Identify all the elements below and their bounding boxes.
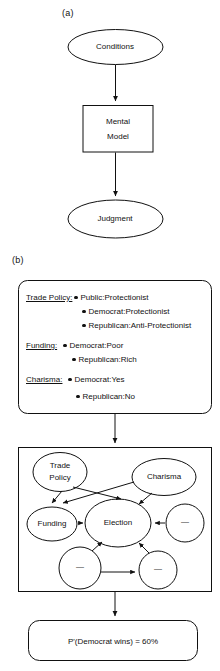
node-mental-model-label-line2: Model (107, 132, 129, 142)
evidence-item-funding-democrat: Democrat:Poor (63, 341, 123, 350)
bullet-dot-icon (82, 310, 86, 314)
evidence-category-charisma: Charisma: (26, 375, 62, 384)
figure-root: (a) (b) (0, 0, 220, 671)
bullet-dot-icon (76, 395, 80, 399)
evidence-category-trade-policy: Trade Policy: (26, 293, 72, 302)
figure-graphics (0, 0, 220, 671)
evidence-item-label: Public:Protectionist (81, 293, 149, 302)
evidence-item-trade-policy-republican: Republican:Anti-Protectionist (82, 321, 191, 330)
bullet-dot-icon (68, 378, 72, 382)
evidence-category-funding: Funding: (26, 341, 57, 350)
node-unlabeled-bottom-left-label: — (76, 562, 84, 572)
node-unlabeled-right-label: — (181, 517, 189, 527)
evidence-item-label: Republican:No (83, 392, 135, 401)
evidence-item-charisma-democrat: Democrat:Yes (68, 375, 124, 384)
evidence-item-funding-republican: Republican:Rich (72, 355, 137, 364)
node-conditions-label: Conditions (96, 42, 134, 52)
evidence-item-label: Republican:Anti-Protectionist (89, 321, 192, 330)
bullet-dot-icon (74, 296, 78, 300)
node-election-label: Election (104, 518, 132, 528)
bullet-dot-icon (63, 344, 67, 348)
node-judgment-label: Judgment (97, 214, 132, 224)
result-box-label: P'(Democrat wins) = 60% (68, 637, 158, 646)
node-mental-model-label-line1: Mental (106, 117, 130, 127)
evidence-item-trade-policy-public: Public:Protectionist (74, 293, 149, 302)
node-trade-policy-label-line1: Trade (50, 461, 71, 471)
evidence-item-label: Democrat:Poor (70, 341, 124, 350)
evidence-item-label: Democrat:Protectionist (89, 307, 170, 316)
node-charisma-label: Charisma (147, 472, 181, 482)
node-mental-model-shape (83, 106, 153, 153)
bullet-dot-icon (82, 324, 86, 328)
evidence-item-label: Republican:Rich (79, 355, 137, 364)
evidence-item-trade-policy-democrat: Democrat:Protectionist (82, 307, 169, 316)
evidence-item-label: Democrat:Yes (75, 375, 125, 384)
node-funding-label: Funding (38, 519, 67, 529)
evidence-item-charisma-republican: Republican:No (76, 392, 135, 401)
node-trade-policy-shape (33, 453, 87, 492)
bullet-dot-icon (72, 358, 76, 362)
node-unlabeled-bottom-right-label: — (154, 564, 162, 574)
node-trade-policy-label-line2: Policy (49, 473, 70, 483)
